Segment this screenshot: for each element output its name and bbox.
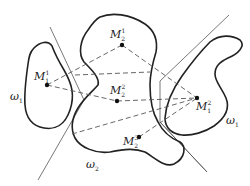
label-omega2: ω2	[86, 158, 99, 172]
connection-M22-M12	[117, 98, 197, 101]
label-omega1-right: ω1	[226, 114, 239, 128]
right-decision-line	[160, 15, 229, 172]
label-M1-2: M12	[195, 99, 212, 114]
connection-M11-M21	[47, 45, 122, 85]
point-M2-1	[120, 43, 124, 47]
connection-left-M12	[72, 98, 197, 134]
label-M1-1: M11	[33, 69, 49, 84]
label-M2-2: M22	[109, 83, 126, 98]
connection-M11-M22	[47, 85, 117, 101]
left-decision-line	[50, 27, 84, 100]
connection-M22-M12-b	[75, 72, 150, 75]
diagram-canvas: M11 M21 M22 M12 M23 ω1 ω2 ω1	[0, 0, 250, 186]
label-omega1-left: ω1	[10, 90, 23, 104]
label-M2-1: M21	[109, 27, 125, 42]
point-M2-2	[115, 99, 119, 103]
label-M2-3: M23	[122, 134, 139, 149]
